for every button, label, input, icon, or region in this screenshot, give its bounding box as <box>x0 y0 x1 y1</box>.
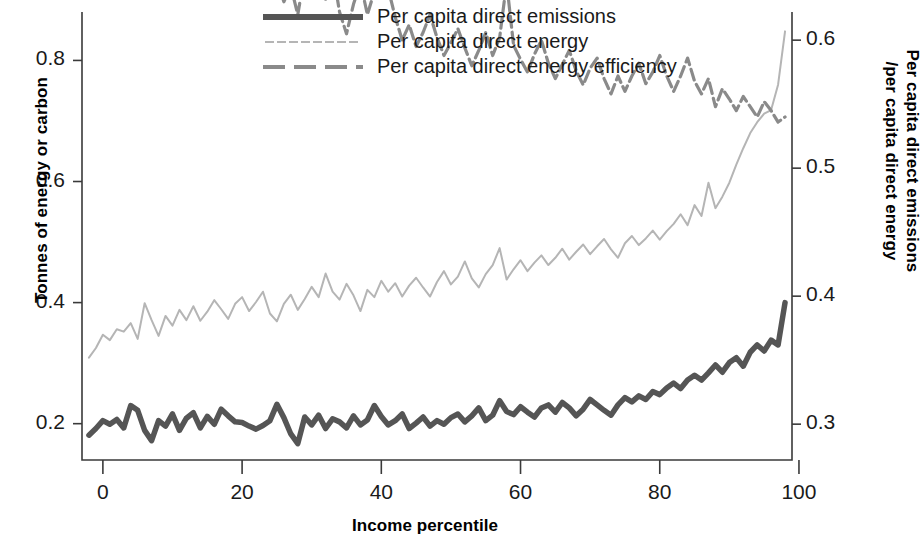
y-tick-right-2: 0.5 <box>806 154 866 178</box>
legend-label-energy: Per capita direct energy <box>377 30 588 53</box>
y-axis-right-title-line2: /per capita direct energy <box>881 1 902 321</box>
legend-label-emissions: Per capita direct emissions <box>377 5 616 28</box>
y-axis-left-title: Tonnes of energy or carbon <box>32 40 52 340</box>
legend-key-energy <box>255 34 363 50</box>
legend-label-efficiency: Per capita direct energy efficiency <box>377 55 677 78</box>
x-tick-0: 0 <box>73 480 133 504</box>
x-tick-1: 20 <box>212 480 272 504</box>
y-axis-right-ticks <box>792 40 801 424</box>
x-tick-3: 60 <box>491 480 551 504</box>
y-axis-left-ticks <box>73 60 82 423</box>
legend-item-energy: Per capita direct energy <box>255 29 725 54</box>
y-tick-right-3: 0.6 <box>806 26 866 50</box>
y-tick-right-1: 0.4 <box>806 282 866 306</box>
x-tick-2: 40 <box>351 480 411 504</box>
x-axis-ticks <box>103 460 799 474</box>
legend-item-emissions: Per capita direct emissions <box>255 4 725 29</box>
y-tick-left-0: 0.2 <box>7 410 65 434</box>
series-line-1 <box>89 31 785 357</box>
y-axis-right-title: Per capita direct emissions /per capita … <box>881 1 923 321</box>
y-axis-right-title-line1: Per capita direct emissions <box>902 1 923 321</box>
y-tick-right-0: 0.3 <box>806 410 866 434</box>
chart-axes <box>73 12 801 474</box>
series-line-0 <box>89 303 785 444</box>
legend-key-efficiency <box>255 59 363 75</box>
x-axis-title: Income percentile <box>0 516 850 536</box>
chart-legend: Per capita direct emissions Per capita d… <box>255 4 725 79</box>
x-tick-5: 100 <box>769 480 829 504</box>
x-tick-4: 80 <box>630 480 690 504</box>
legend-key-emissions <box>255 9 363 25</box>
legend-item-efficiency: Per capita direct energy efficiency <box>255 54 725 79</box>
